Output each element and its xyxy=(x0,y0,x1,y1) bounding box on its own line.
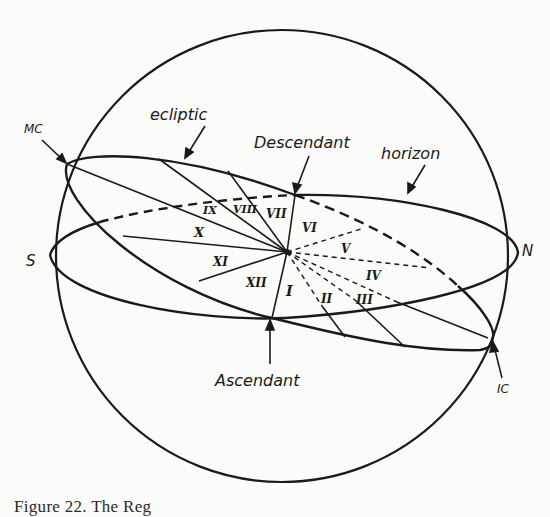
celestial-sphere xyxy=(56,30,508,482)
mc-label: MC xyxy=(24,122,43,136)
house-7-numeral: VII xyxy=(266,207,287,221)
house-12-numeral: XII xyxy=(245,276,267,290)
pointer-arrows xyxy=(42,126,502,378)
ecliptic-plane xyxy=(66,156,493,350)
center-point xyxy=(284,249,290,255)
house-9-numeral: IX xyxy=(202,204,217,217)
south-label: S xyxy=(26,252,36,270)
house-11-numeral: XI xyxy=(212,255,228,269)
house-2-numeral: II xyxy=(320,292,333,306)
house-4-numeral: IV xyxy=(365,269,383,283)
ascendant-label: Ascendant xyxy=(214,371,300,390)
ic-label: IC xyxy=(497,382,510,396)
house-3-numeral: III xyxy=(355,293,373,307)
house-6-numeral: VI xyxy=(302,221,317,235)
horizon-label: horizon xyxy=(381,144,440,163)
figure-caption: Figure 22. The Reg xyxy=(14,497,151,517)
house-8-numeral: VIII xyxy=(233,203,258,216)
descendant-label: Descendant xyxy=(254,133,350,152)
house-10-numeral: X xyxy=(193,225,205,240)
ecliptic-label: ecliptic xyxy=(150,105,207,124)
house-numerals: I II III IV V VI VII VIII IX X XI XII xyxy=(193,203,383,307)
north-label: N xyxy=(522,242,533,260)
house-5-numeral: V xyxy=(341,242,352,256)
house-1-numeral: I xyxy=(285,283,293,299)
